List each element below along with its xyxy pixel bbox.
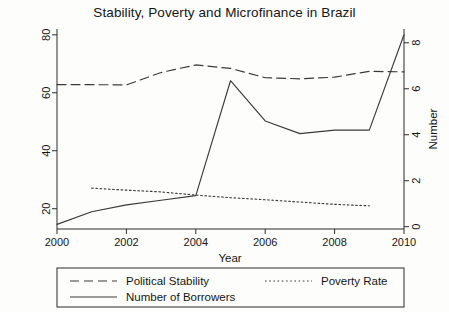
chart-plot-area: 20406080 02468 200020022004200620082010 … (0, 0, 449, 312)
axis-frame (57, 29, 404, 229)
y-tick-label-right: 4 (410, 132, 422, 138)
x-axis-ticks: 200020022004200620082010 (45, 229, 416, 248)
x-tick-label: 2002 (114, 236, 138, 248)
y-tick-label-left: 60 (40, 87, 52, 99)
x-tick-label: 2008 (322, 236, 346, 248)
y-axis-right-title: Number (427, 108, 439, 149)
y-axis-right-ticks: 02468 (404, 40, 422, 230)
legend: Political StabilityPoverty RateNumber of… (70, 275, 387, 303)
chart-figure: Stability, Poverty and Microfinance in B… (0, 0, 449, 312)
data-series-group (57, 35, 404, 225)
y-tick-label-left: 40 (40, 145, 52, 157)
y-tick-label-right: 0 (410, 224, 422, 230)
y-tick-label-right: 8 (410, 40, 422, 46)
legend-label: Political Stability (126, 275, 209, 287)
x-tick-label: 2004 (184, 236, 208, 248)
x-axis-title: Year (218, 252, 241, 264)
series-line-poverty-rate (92, 188, 370, 206)
y-tick-label-right: 6 (410, 86, 422, 92)
x-tick-label: 2000 (45, 236, 69, 248)
y-tick-label-left: 80 (40, 29, 52, 41)
x-tick-label: 2006 (253, 236, 277, 248)
x-tick-label: 2010 (392, 236, 416, 248)
legend-label: Number of Borrowers (126, 291, 236, 303)
y-axis-left-ticks: 20406080 (40, 29, 57, 215)
legend-label: Poverty Rate (321, 275, 387, 287)
y-tick-label-left: 20 (40, 203, 52, 215)
series-line-number-of-borrowers (57, 35, 404, 225)
y-tick-label-right: 2 (410, 178, 422, 184)
